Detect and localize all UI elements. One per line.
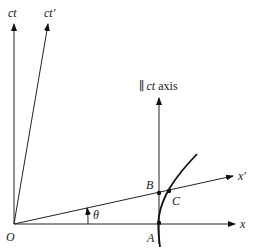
x-axis-label: x	[239, 217, 246, 231]
spacetime-diagram: ct ct′ x x′ ∥ct axis θ O A B C	[0, 0, 253, 252]
ct-prime-axis	[14, 24, 48, 224]
point-a-label: A	[146, 231, 155, 245]
ct-prime-axis-label: ct′	[44, 6, 56, 20]
x-prime-axis	[14, 176, 233, 224]
x-prime-axis-label: x′	[237, 169, 246, 183]
point-b-label: B	[146, 178, 154, 192]
ct-axis-label: ct	[8, 6, 17, 20]
theta-label: θ	[93, 208, 99, 222]
origin-label: O	[6, 230, 15, 244]
point-b	[157, 191, 161, 195]
point-a	[157, 221, 161, 225]
theta-arc	[87, 208, 88, 224]
point-c	[167, 189, 171, 193]
point-c-label: C	[172, 194, 181, 208]
parallel-ct-axis-label: ∥ct axis	[139, 79, 178, 93]
